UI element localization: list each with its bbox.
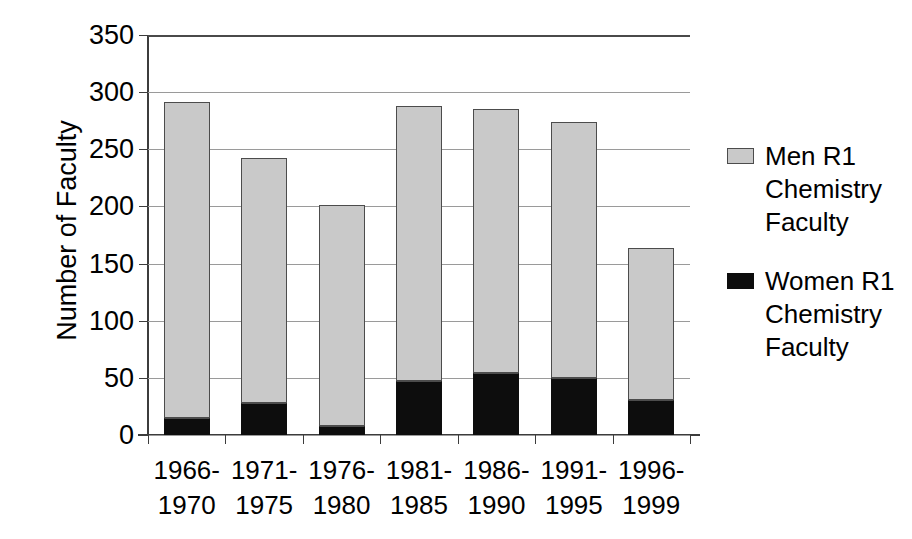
y-axis-title: Number of Faculty [52,71,83,391]
legend-label-line: Men R1 [765,140,907,173]
x-axis-label-line: 1996- [596,453,706,488]
y-tick-350 [139,35,148,36]
x-axis-label: 1996-1999 [596,453,706,523]
faculty-stacked-bar-chart: Number of Faculty 350300250200150100500 … [0,0,912,539]
legend-swatch-men [727,148,754,164]
bar-segment-men[interactable] [164,102,210,417]
legend-label-line: Chemistry [765,173,907,206]
y-tick-200 [139,206,148,207]
y-tick-label-50: 50 [24,362,134,393]
bar-segment-women[interactable] [473,373,519,435]
x-tick [380,435,381,444]
x-tick [690,435,691,444]
x-tick [303,435,304,444]
y-tick-label-300: 300 [24,77,134,108]
legend-label-line: Faculty [765,331,907,364]
y-tick-label-0: 0 [24,420,134,451]
y-tick-50 [139,378,148,379]
legend-entry[interactable]: Men R1ChemistryFaculty [727,140,907,239]
legend-label-line: Women R1 [765,265,907,298]
legend-entry[interactable]: Women R1ChemistryFaculty [727,265,907,364]
y-tick-250 [139,149,148,150]
bar-group[interactable] [551,35,597,435]
x-axis-label-line: 1999 [596,488,706,523]
legend-label-line: Chemistry [765,298,907,331]
x-tick [225,435,226,444]
bar-segment-men[interactable] [241,158,287,403]
y-tick-0 [139,435,148,436]
y-tick-label-200: 200 [24,191,134,222]
x-tick [535,435,536,444]
bar-segment-men[interactable] [473,109,519,373]
x-tick [613,435,614,444]
bar-segment-men[interactable] [628,248,674,400]
y-tick-300 [139,92,148,93]
legend-label-line: Faculty [765,206,907,239]
y-tick-label-100: 100 [24,305,134,336]
bar-group[interactable] [628,35,674,435]
legend-label: Men R1ChemistryFaculty [765,140,907,239]
plot-area: 350300250200150100500 1966-19701971-1975… [148,35,690,435]
legend-label: Women R1ChemistryFaculty [765,265,907,364]
bar-segment-men[interactable] [319,205,365,426]
plot-frame: 350300250200150100500 [148,35,690,435]
bar-segment-men[interactable] [551,122,597,378]
bar-group[interactable] [241,35,287,435]
y-tick-100 [139,321,148,322]
y-tick-150 [139,264,148,265]
y-tick-label-250: 250 [24,134,134,165]
bar-group[interactable] [396,35,442,435]
bar-segment-women[interactable] [241,403,287,435]
chart-legend: Men R1ChemistryFacultyWomen R1ChemistryF… [727,140,907,390]
bar-group[interactable] [319,35,365,435]
bar-segment-men[interactable] [396,106,442,381]
bar-segment-women[interactable] [628,400,674,435]
bar-segment-women[interactable] [551,378,597,435]
x-tick [458,435,459,444]
bar-segment-women[interactable] [164,418,210,435]
bar-segment-women[interactable] [396,381,442,435]
y-tick-label-350: 350 [24,20,134,51]
bar-group[interactable] [164,35,210,435]
bar-group[interactable] [473,35,519,435]
bars-layer [148,35,690,435]
legend-swatch-women [727,273,754,289]
bar-segment-women[interactable] [319,426,365,435]
x-tick [148,435,149,444]
y-tick-label-150: 150 [24,248,134,279]
gridline-0 [148,435,690,436]
